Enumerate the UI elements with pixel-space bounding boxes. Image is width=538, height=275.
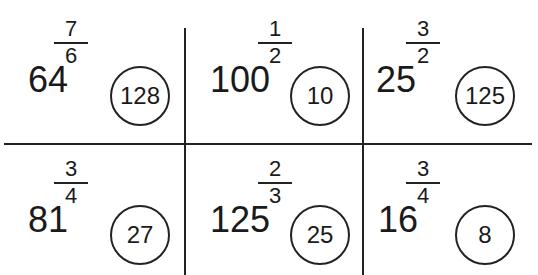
exponent-denominator: 4 bbox=[54, 185, 88, 207]
grid-divider-horizontal bbox=[4, 143, 532, 145]
base-number: 100 bbox=[210, 62, 270, 98]
exponent-numerator: 7 bbox=[54, 18, 88, 40]
exponent-denominator: 3 bbox=[258, 185, 292, 207]
base-number: 16 bbox=[378, 202, 418, 238]
exponent-cell: 81 3 4 27 bbox=[28, 150, 206, 275]
base-number: 64 bbox=[28, 62, 68, 98]
exponent-numerator: 3 bbox=[406, 18, 440, 40]
exponent-numerator: 3 bbox=[406, 158, 440, 180]
base-number: 81 bbox=[28, 202, 68, 238]
exponent-cell: 25 3 2 125 bbox=[376, 10, 538, 140]
exponent-cell: 16 3 4 8 bbox=[378, 150, 538, 275]
base-number: 125 bbox=[210, 202, 270, 238]
exponent-denominator: 2 bbox=[406, 45, 440, 67]
exponent-numerator: 3 bbox=[54, 158, 88, 180]
exponent-cell: 125 2 3 25 bbox=[210, 150, 388, 275]
answer-circle: 10 bbox=[290, 66, 350, 126]
exponent-cell: 64 7 6 128 bbox=[28, 10, 206, 140]
base-number: 25 bbox=[376, 62, 416, 98]
answer-circle: 125 bbox=[455, 66, 515, 126]
exponent-numerator: 1 bbox=[258, 18, 292, 40]
exponent-numerator: 2 bbox=[258, 158, 292, 180]
answer-circle: 8 bbox=[455, 205, 515, 265]
answer-circle: 128 bbox=[110, 66, 170, 126]
answer-circle: 25 bbox=[290, 205, 350, 265]
exponent-denominator: 2 bbox=[258, 45, 292, 67]
exponent-denominator: 6 bbox=[54, 45, 88, 67]
exponent-cell: 100 1 2 10 bbox=[210, 10, 388, 140]
exponent-denominator: 4 bbox=[406, 185, 440, 207]
answer-circle: 27 bbox=[110, 205, 170, 265]
